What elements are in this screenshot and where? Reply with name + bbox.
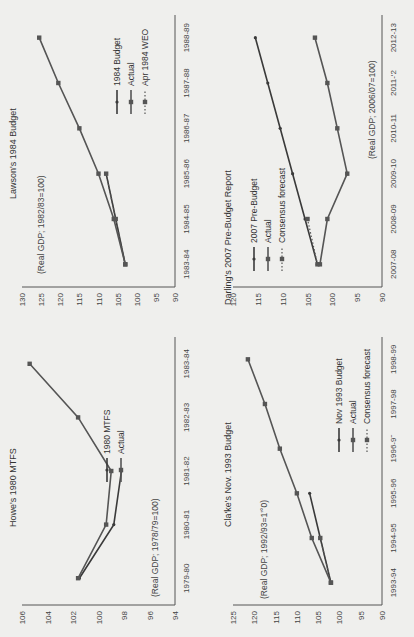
- data-point: [305, 217, 309, 221]
- series-line: [315, 38, 347, 265]
- data-point: [263, 402, 267, 406]
- y-tick-label: 96: [146, 610, 155, 619]
- legend-swatch: [263, 245, 273, 271]
- data-point: [246, 357, 250, 361]
- howe-chart-panel: 9496981001021041061979-801980-811981-821…: [0, 319, 207, 637]
- x-tick-label: 1998-99: [389, 344, 398, 374]
- x-tick-label: 1987-88: [182, 68, 191, 98]
- legend-marker: [105, 468, 108, 471]
- legend-item: Actual: [124, 29, 138, 114]
- data-point: [104, 171, 108, 175]
- y-tick-label: 104: [44, 610, 53, 624]
- legend-label: Actual: [263, 219, 273, 243]
- x-tick-label: 2009-10: [389, 158, 398, 188]
- legend-marker: [129, 100, 133, 104]
- legend-marker: [337, 438, 340, 441]
- data-point: [313, 35, 317, 39]
- x-tick-label: 1985-86: [182, 158, 191, 188]
- legend-marker: [252, 257, 255, 260]
- data-point: [254, 36, 257, 39]
- clarke-chart-panel: 90951001051101151201251993-941994-951995…: [207, 319, 414, 637]
- legend-swatch: [116, 456, 126, 482]
- x-tick-label: 1983-84: [182, 249, 191, 279]
- y-tick-label: 106: [18, 610, 27, 624]
- data-point: [308, 492, 311, 495]
- y-tick-label: 105: [304, 292, 313, 306]
- x-tick-label: 2010-11: [389, 113, 398, 142]
- legend-swatch: [102, 456, 112, 482]
- lawson-chart-plot: 90951001051101151201251301983-841984-851…: [0, 1, 207, 319]
- data-point: [112, 523, 115, 526]
- x-tick-label: 1980-81: [182, 509, 191, 539]
- legend-marker: [119, 468, 123, 472]
- y-tick-label: 115: [75, 292, 84, 305]
- x-tick-label: 1981-82: [182, 456, 191, 486]
- legend-label: Consensus forecast: [362, 349, 372, 424]
- y-tick-label: 130: [18, 292, 27, 306]
- y-tick-label: 120: [56, 292, 65, 306]
- y-tick-label: 105: [314, 610, 323, 624]
- lawson-chart-title: Lawson's 1984 Budget: [8, 108, 18, 199]
- data-point: [266, 81, 269, 84]
- x-tick-label: 1986-87: [182, 113, 191, 143]
- darling-chart-plot: 90951001051101151202007-082008-092009-10…: [207, 1, 414, 319]
- data-point: [37, 35, 41, 39]
- data-point: [291, 172, 294, 175]
- data-point: [76, 415, 80, 419]
- data-point: [104, 522, 108, 526]
- darling-chart-panel: 90951001051101151202007-082008-092009-10…: [207, 1, 414, 319]
- y-tick-label: 125: [229, 610, 238, 624]
- data-point: [325, 81, 329, 85]
- y-tick-label: 115: [272, 610, 281, 623]
- x-tick-label: 2011-‘2: [389, 69, 398, 96]
- y-tick-label: 120: [250, 610, 259, 624]
- y-tick-label: 98: [120, 610, 129, 619]
- legend-swatch: [334, 426, 344, 452]
- data-point: [335, 126, 339, 130]
- data-point: [329, 580, 333, 584]
- x-tick-label: 2008-09: [389, 204, 398, 234]
- clarke-chart-legend: Nov 1993 BudgetActualConsensus forecast: [332, 349, 374, 452]
- y-tick-label: 95: [152, 292, 161, 301]
- x-tick-label: 1996-9˜: [389, 435, 398, 463]
- clarke-chart-note: (Real GDP; 1992/93=1’°0): [259, 500, 269, 599]
- legend-marker: [143, 100, 147, 104]
- x-tick-label: 1995-96: [389, 478, 398, 508]
- data-point: [315, 262, 319, 266]
- legend-marker: [280, 257, 284, 261]
- y-tick-label: 90: [378, 610, 387, 619]
- x-tick-label: 1997-98: [389, 389, 398, 419]
- series-1980-mtfs: [78, 469, 123, 579]
- chart-page: 9496981001021041061979-801980-811981-821…: [0, 0, 414, 637]
- clarke-chart-plot: 90951001051101151201251993-941994-951995…: [207, 319, 414, 637]
- legend-item: Actual: [261, 168, 275, 271]
- y-tick-label: 105: [114, 292, 123, 306]
- data-point: [27, 362, 31, 366]
- legend-swatch: [140, 88, 150, 114]
- darling-chart-title: Darling's 2007 Pre-Budget Report: [223, 170, 233, 305]
- howe-chart-legend: 1980 MTFSActual: [100, 410, 128, 482]
- legend-item: 1980 MTFS: [100, 410, 114, 482]
- data-point: [56, 81, 60, 85]
- x-tick-label: 1984-85: [182, 204, 191, 234]
- data-point: [123, 262, 127, 266]
- legend-marker: [266, 257, 270, 261]
- legend-item: 1984 Budget: [110, 29, 124, 114]
- data-point: [325, 217, 329, 221]
- legend-item: Actual: [346, 349, 360, 452]
- x-tick-label: 1979-80: [182, 563, 191, 593]
- series-apr-1984-weo: [104, 171, 128, 266]
- series-line: [30, 364, 112, 578]
- y-tick-label: 100: [133, 292, 142, 306]
- y-tick-label: 100: [335, 610, 344, 624]
- y-tick-label: 90: [378, 292, 387, 301]
- legend-swatch: [249, 245, 259, 271]
- darling-chart-note: (Real GDP; 2006/07=100): [367, 60, 377, 159]
- legend-swatch: [362, 426, 372, 452]
- darling-chart-legend: 2007 Pre-BudgetActualConsensus forecast: [247, 168, 289, 271]
- y-tick-label: 115: [254, 292, 263, 305]
- legend-marker: [115, 100, 118, 103]
- lawson-chart-panel: 90951001051101151201251301983-841984-851…: [0, 1, 207, 319]
- y-tick-label: 102: [69, 610, 78, 624]
- data-point: [76, 576, 80, 580]
